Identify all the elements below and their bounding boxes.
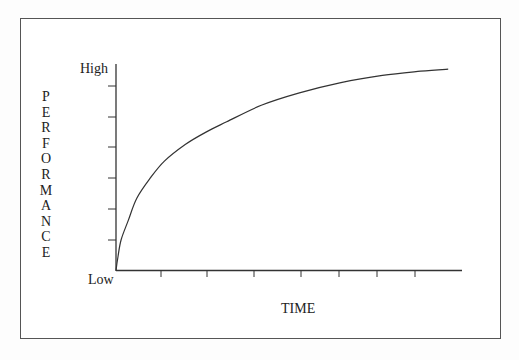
y-axis-title-letter: E: [38, 105, 54, 121]
y-axis-high-label: High: [80, 62, 108, 76]
y-axis-title-letter: C: [38, 229, 54, 245]
x-axis-title: TIME: [281, 302, 315, 316]
y-axis-title-letter: P: [38, 89, 54, 105]
performance-curve: [116, 69, 448, 270]
y-axis-title-letter: O: [38, 151, 54, 167]
y-axis-title-letter: N: [38, 214, 54, 230]
y-axis-low-label: Low: [88, 273, 114, 287]
y-axis-title: PERFORMANCE: [38, 89, 54, 261]
y-axis-title-letter: F: [38, 136, 54, 152]
y-axis-title-letter: R: [38, 167, 54, 183]
chart-plot: [0, 0, 519, 360]
y-axis-ticks: [108, 86, 116, 240]
y-axis-title-letter: R: [38, 120, 54, 136]
y-axis-title-letter: E: [38, 245, 54, 261]
y-axis-title-letter: A: [38, 198, 54, 214]
y-axis-title-letter: M: [38, 183, 54, 199]
